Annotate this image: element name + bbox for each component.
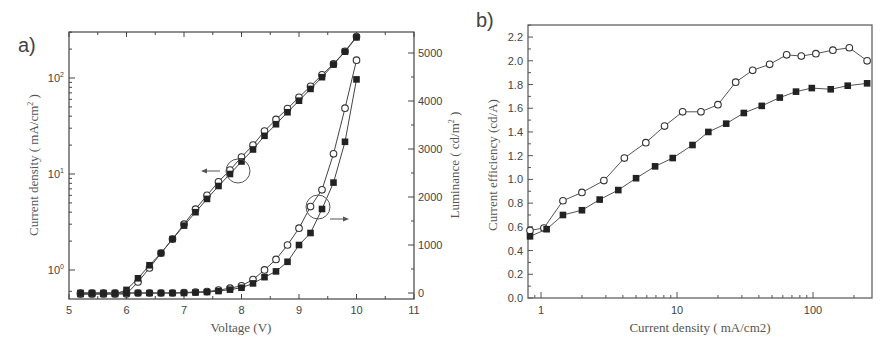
y-right-tick-label: 3000 bbox=[418, 143, 442, 155]
x-tick-label: 8 bbox=[238, 304, 244, 316]
x-tick-label: 100 bbox=[804, 304, 822, 316]
chart-a: a)56789101110010110201000200030004000500… bbox=[18, 32, 462, 335]
square-marker bbox=[100, 290, 107, 297]
y-right-tick-label: 1000 bbox=[418, 239, 442, 251]
square-marker bbox=[353, 34, 360, 41]
panel-label-b: b) bbox=[476, 9, 494, 31]
x-tick-label: 7 bbox=[181, 304, 187, 316]
circle-marker bbox=[813, 50, 820, 57]
y-tick-label: 0.4 bbox=[508, 245, 523, 257]
series-a-0 bbox=[77, 33, 360, 297]
circle-marker bbox=[864, 58, 871, 65]
circle-marker bbox=[679, 108, 686, 115]
y-right-tick-label: 4000 bbox=[418, 95, 442, 107]
x-tick-label: 9 bbox=[296, 304, 302, 316]
series-b-0 bbox=[527, 44, 871, 233]
y-tick-label: 0.2 bbox=[508, 268, 523, 280]
square-marker bbox=[135, 290, 142, 297]
circle-marker bbox=[353, 57, 360, 64]
x-axis-label-a: Voltage (V) bbox=[211, 320, 272, 335]
y-tick-label: 0.8 bbox=[508, 197, 523, 209]
y-tick-label: 1.8 bbox=[508, 79, 523, 91]
square-marker bbox=[261, 274, 268, 281]
square-marker bbox=[689, 142, 696, 149]
plot-frame-b bbox=[528, 25, 872, 298]
circle-marker bbox=[307, 203, 314, 210]
square-marker bbox=[123, 290, 130, 297]
circle-marker bbox=[601, 177, 608, 184]
square-marker bbox=[169, 236, 176, 243]
figure: a)56789101110010110201000200030004000500… bbox=[0, 0, 890, 349]
square-marker bbox=[330, 61, 337, 68]
square-marker bbox=[89, 290, 96, 297]
circle-marker bbox=[560, 197, 567, 204]
y-tick-label: 0.6 bbox=[508, 221, 523, 233]
circle-marker bbox=[798, 53, 805, 60]
square-marker bbox=[353, 76, 360, 83]
square-marker bbox=[181, 290, 188, 297]
circle-marker bbox=[273, 256, 280, 263]
square-marker bbox=[342, 48, 349, 55]
square-marker bbox=[169, 290, 176, 297]
y-tick-label: 2.2 bbox=[508, 31, 523, 43]
square-marker bbox=[319, 206, 326, 213]
circle-marker bbox=[342, 105, 349, 112]
square-marker bbox=[307, 230, 314, 237]
plot-frame-a bbox=[69, 32, 414, 299]
square-marker bbox=[776, 94, 783, 101]
square-marker bbox=[342, 139, 349, 146]
y-tick-label: 1.4 bbox=[508, 126, 523, 138]
circle-marker bbox=[783, 52, 790, 59]
y-tick-label: 1.2 bbox=[508, 150, 523, 162]
series-a-2 bbox=[77, 57, 360, 296]
circle-marker bbox=[319, 187, 326, 194]
square-marker bbox=[741, 110, 748, 117]
square-marker bbox=[527, 233, 534, 240]
square-marker bbox=[793, 88, 800, 95]
circle-marker bbox=[698, 108, 705, 115]
circle-marker bbox=[715, 101, 722, 108]
chart-b: b)0.00.20.40.60.81.01.21.41.61.82.02.211… bbox=[476, 9, 872, 335]
square-marker bbox=[652, 163, 659, 170]
x-tick-label: 10 bbox=[671, 304, 683, 316]
square-marker bbox=[146, 262, 153, 269]
square-marker bbox=[204, 196, 211, 203]
y-right-tick-label: 5000 bbox=[418, 47, 442, 59]
y-tick-label: 2.0 bbox=[508, 55, 523, 67]
circle-marker bbox=[846, 44, 853, 51]
square-marker bbox=[296, 242, 303, 249]
square-marker bbox=[273, 121, 280, 128]
square-marker bbox=[844, 82, 851, 89]
square-marker bbox=[758, 103, 765, 110]
x-tick-label: 11 bbox=[408, 304, 419, 316]
circle-marker bbox=[830, 47, 837, 54]
y-right-tick-label: 0 bbox=[418, 287, 424, 299]
circle-marker bbox=[661, 123, 668, 130]
square-marker bbox=[705, 129, 712, 136]
square-marker bbox=[112, 290, 119, 297]
circle-marker bbox=[621, 155, 628, 162]
square-marker bbox=[192, 289, 199, 296]
y-tick-label: 1.0 bbox=[508, 173, 523, 185]
circle-marker bbox=[579, 189, 586, 196]
x-tick-label: 5 bbox=[66, 304, 72, 316]
square-marker bbox=[864, 80, 871, 87]
circle-marker bbox=[643, 139, 650, 146]
square-marker bbox=[135, 275, 142, 282]
square-marker bbox=[284, 109, 291, 116]
square-marker bbox=[273, 268, 280, 275]
square-marker bbox=[579, 207, 586, 214]
y-left-tick-label: 101 bbox=[48, 167, 64, 180]
square-marker bbox=[307, 86, 314, 93]
circle-marker bbox=[261, 267, 268, 274]
square-marker bbox=[615, 187, 622, 194]
square-marker bbox=[250, 280, 257, 287]
square-marker bbox=[560, 212, 567, 219]
circle-marker bbox=[296, 225, 303, 232]
square-marker bbox=[192, 209, 199, 216]
square-marker bbox=[227, 286, 234, 293]
square-marker bbox=[77, 290, 84, 297]
square-marker bbox=[158, 250, 165, 257]
square-marker bbox=[809, 85, 816, 92]
y-left-axis-label: Current density ( mA/cm2 ) bbox=[26, 94, 41, 236]
